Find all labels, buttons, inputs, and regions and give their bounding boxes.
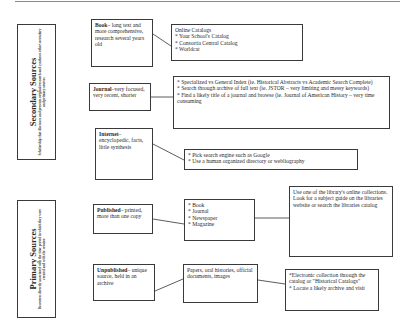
online-catalogs-node: Online Catalogs * Your School's Catalog … [171,24,303,61]
unpublished-term: Unpublished [97,267,127,273]
internet-node: Internet– encyclopedic, facts, little sy… [95,128,153,180]
index-node: * Specialized vs General Index (ie. Hist… [173,76,390,129]
published-types-node: * Book * Journal * Newspaper * Magazine [184,199,255,241]
internet-term: Internet [99,131,119,137]
published-node: Published– printed, more than one copy [93,204,153,234]
archive-search-node: *Electronic collection through the catal… [285,269,379,311]
book-node: Book– long text and more comprehensive, … [91,19,153,67]
journal-term: Journal [93,86,112,92]
primary-sources-subtitle: Resources directly associated with the t… [37,204,45,314]
search-engine-item: * Use a human organized directory or web… [188,158,354,164]
unpublished-types-text: Papers, oral histories, official documen… [187,267,253,279]
library-collections-text: Use one of the library's online collecti… [293,189,387,208]
online-catalogs-item: * Worldcat [175,46,299,52]
search-engine-node: * Pick search engine such as Google * Us… [184,149,358,170]
secondary-sources-title: Secondary Sources [28,28,37,156]
index-item: * Search through archive of full text (i… [177,85,386,91]
secondary-sources-label: Secondary Sources Scholarship that discu… [17,24,56,160]
library-collections-node: Use one of the library's online collecti… [289,186,393,257]
journal-node: Journal–very focused, very recent, short… [89,83,151,111]
primary-sources-title: Primary Sources [28,204,37,314]
secondary-sources-subtitle: Scholarship that discusses and presents … [37,28,45,156]
archive-search-item: *Electronic collection through the catal… [289,272,375,285]
published-type-item: * Magazine [188,221,251,227]
book-term: Book [95,22,107,28]
primary-sources-label: Primary Sources Resources directly assoc… [17,200,56,318]
unpublished-types-node: Papers, oral histories, official documen… [183,264,258,303]
index-item: * Find a likely title of a journal and b… [177,92,386,105]
archive-search-item: * Locate a likely archive and visit [289,285,375,291]
published-term: Published [97,207,121,213]
unpublished-node: Unpublished– unique source, held in an a… [93,264,155,301]
